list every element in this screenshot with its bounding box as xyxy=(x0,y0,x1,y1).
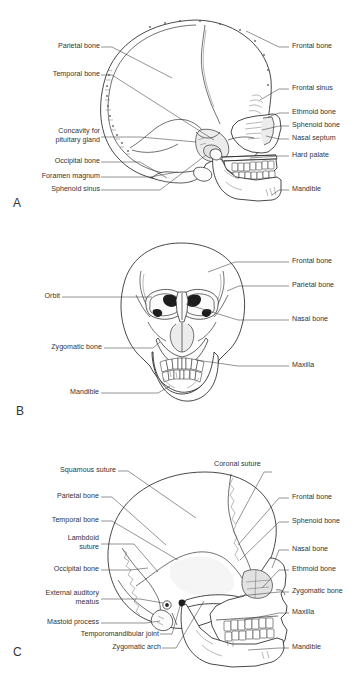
panel-letter-c: C xyxy=(13,645,22,659)
label-b-zygomatic-bone: Zygomatic bone xyxy=(4,343,102,352)
label-b-maxilla: Maxilla xyxy=(292,361,314,370)
label-c-sphenoid-bone: Sphenoid bone xyxy=(292,517,340,526)
label-a-concavity-pituitary-line1: Concavity for xyxy=(4,127,100,136)
label-b-nasal-bone: Nasal bone xyxy=(292,315,328,324)
panel-letter-a: A xyxy=(13,196,21,210)
label-b-orbit: Orbit xyxy=(4,292,60,301)
label-a-parietal-bone: Parietal bone xyxy=(4,42,100,51)
panel-b-drawing xyxy=(62,243,289,401)
label-a-mandible: Mandible xyxy=(292,185,321,194)
label-c-temporal-bone: Temporal bone xyxy=(4,516,99,525)
label-a-sphenoid-bone: Sphenoid bone xyxy=(292,121,340,130)
skull-anatomy-figure: Parietal bone Temporal bone Concavity fo… xyxy=(0,0,362,676)
label-a-frontal-bone: Frontal bone xyxy=(292,42,332,51)
label-c-maxilla: Maxilla xyxy=(292,608,314,617)
label-a-sphenoid-sinus: Sphenoid sinus xyxy=(4,185,100,194)
label-c-temporomandibular-joint: Temporomandibular joint xyxy=(4,630,159,639)
label-c-ethmoid-bone: Ethmoid bone xyxy=(292,565,336,574)
label-a-concavity-pituitary-line2: pituitary gland xyxy=(4,136,100,145)
label-c-external-auditory-meatus-line1: External auditory xyxy=(4,589,99,598)
label-a-frontal-sinus: Frontal sinus xyxy=(292,84,333,93)
label-c-mandible: Mandible xyxy=(292,643,321,652)
label-b-mandible: Mandible xyxy=(4,388,99,397)
label-c-lambdoid-suture-line1: Lambdoid xyxy=(4,534,99,543)
label-b-parietal-bone: Parietal bone xyxy=(292,281,334,290)
label-a-foramen-magnum: Foramen magnum xyxy=(4,172,100,181)
label-c-nasal-bone: Nasal bone xyxy=(292,545,328,554)
panel-letter-b: B xyxy=(16,404,24,418)
label-a-ethmoid-bone: Ethmoid bone xyxy=(292,108,336,117)
label-c-occipital-bone: Occipital bone xyxy=(4,565,99,574)
label-c-mastoid-process: Mastoid process xyxy=(4,618,99,627)
label-c-frontal-bone: Frontal bone xyxy=(292,493,332,502)
label-c-zygomatic-bone: Zygomatic bone xyxy=(292,587,343,596)
label-c-external-auditory-meatus-line2: meatus xyxy=(4,598,99,607)
label-c-coronal-suture: Coronal suture xyxy=(214,460,261,469)
label-a-occipital-bone: Occipital bone xyxy=(4,157,100,166)
label-a-hard-palate: Hard palate xyxy=(292,151,329,160)
label-a-nasal-septum: Nasal septum xyxy=(292,134,336,143)
label-b-frontal-bone: Frontal bone xyxy=(292,257,332,266)
label-c-parietal-bone: Parietal bone xyxy=(4,492,99,501)
label-c-squamous-suture: Squamous suture xyxy=(4,466,116,475)
skull-illustrations xyxy=(0,0,362,676)
label-a-temporal-bone: Temporal bone xyxy=(4,70,100,79)
label-c-zygomatic-arch: Zygomatic arch xyxy=(4,643,161,652)
label-c-lambdoid-suture-line2: suture xyxy=(4,543,99,552)
panel-a-drawing xyxy=(101,20,289,201)
